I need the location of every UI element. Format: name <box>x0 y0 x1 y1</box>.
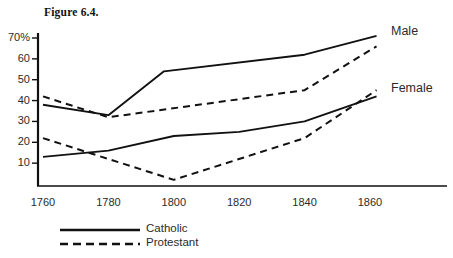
y-axis-tick-label: 30 <box>0 114 30 126</box>
data-series-layer <box>43 36 377 180</box>
chart-plot-area <box>0 0 453 258</box>
y-axis-tick-label: 40 <box>0 94 30 106</box>
x-axis-tick-label: 1840 <box>280 196 330 208</box>
x-axis-tick-label: 1800 <box>149 196 199 208</box>
figure-container: Figure 6.4. 70%605040302010 176017801800… <box>0 0 453 258</box>
y-axis-tick-label: 60 <box>0 52 30 64</box>
series-line-catholic-female <box>43 96 377 156</box>
series-line-protestant-male <box>43 46 377 117</box>
y-axis-tick-label: 20 <box>0 135 30 147</box>
legend-label-catholic: Catholic <box>146 222 188 234</box>
x-axis-tick-label: 1860 <box>345 196 395 208</box>
y-axis-tick-label: 70% <box>0 31 30 43</box>
x-axis-tick-label: 1760 <box>18 196 68 208</box>
y-axis-tick-label: 50 <box>0 73 30 85</box>
y-axis-tick-label: 10 <box>0 156 30 168</box>
legend-label-protestant: Protestant <box>146 236 198 248</box>
x-axis-tick-label: 1780 <box>83 196 133 208</box>
series-group-label-female: Female <box>391 81 433 95</box>
series-group-label-male: Male <box>391 24 418 38</box>
legend-key-lines <box>60 230 140 244</box>
x-axis-tick-label: 1820 <box>214 196 264 208</box>
